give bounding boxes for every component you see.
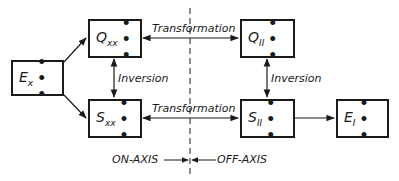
node-ex: Ex • • • [11, 60, 64, 96]
node-ei-symbol: EI [344, 109, 356, 128]
node-ei-dots: • • • [360, 95, 387, 143]
node-qii-symbol: QII [248, 29, 264, 48]
node-qii: QII • • • [240, 19, 295, 58]
node-sii: SII • • • [240, 99, 295, 138]
label-on-axis: ON-AXIS [112, 153, 158, 166]
arrow-ex-to-qxx [64, 38, 86, 62]
node-qii-dots: • • • [268, 15, 293, 63]
node-sxx-symbol: Sxx [96, 109, 116, 128]
node-ei: EI • • • [336, 99, 389, 138]
label-transformation-top: Transformation [152, 22, 235, 35]
node-ex-symbol: Ex [19, 69, 33, 88]
label-inversion-left: Inversion [118, 72, 169, 85]
node-qxx-symbol: Qxx [96, 29, 118, 48]
label-transformation-bottom: Transformation [152, 102, 235, 115]
label-off-axis: OFF-AXIS [217, 153, 267, 166]
arrow-ex-to-sxx [64, 95, 86, 118]
node-ex-dots: • • • [37, 54, 62, 102]
node-sxx: Sxx • • • [88, 99, 142, 138]
node-qxx: Qxx • • • [88, 19, 142, 58]
node-sii-symbol: SII [248, 109, 262, 128]
node-qxx-dots: • • • [122, 15, 140, 63]
node-sii-dots: • • • [266, 95, 293, 143]
label-inversion-right: Inversion [271, 72, 322, 85]
node-sxx-dots: • • • [120, 95, 140, 143]
